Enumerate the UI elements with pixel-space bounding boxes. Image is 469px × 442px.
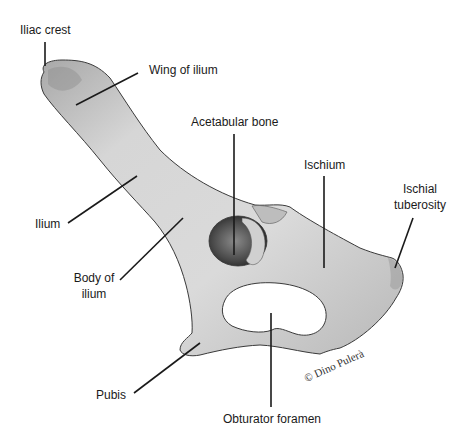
label-ilium: Ilium [35, 216, 60, 232]
label-ischium: Ischium [304, 157, 345, 173]
hip-bone-diagram [0, 0, 469, 442]
label-body-of-ilium-line1: Body of [66, 270, 122, 286]
label-ischial-tuberosity-line2: tuberosity [385, 197, 455, 213]
leader-pubis [134, 343, 200, 393]
label-body-of-ilium-line2: ilium [66, 286, 122, 302]
leader-ischial-tuberosity [395, 218, 413, 268]
leader-ilium [68, 176, 137, 223]
label-iliac-crest: Iliac crest [20, 22, 71, 38]
label-ischial-tuberosity: Ischial tuberosity [385, 181, 455, 213]
label-ischial-tuberosity-line1: Ischial [385, 181, 455, 197]
label-pubis: Pubis [96, 387, 126, 403]
label-body-of-ilium: Body of ilium [66, 270, 122, 302]
label-acetabular-bone: Acetabular bone [191, 114, 278, 130]
label-obturator-foramen: Obturator foramen [223, 411, 321, 427]
label-wing-of-ilium: Wing of ilium [149, 62, 218, 78]
